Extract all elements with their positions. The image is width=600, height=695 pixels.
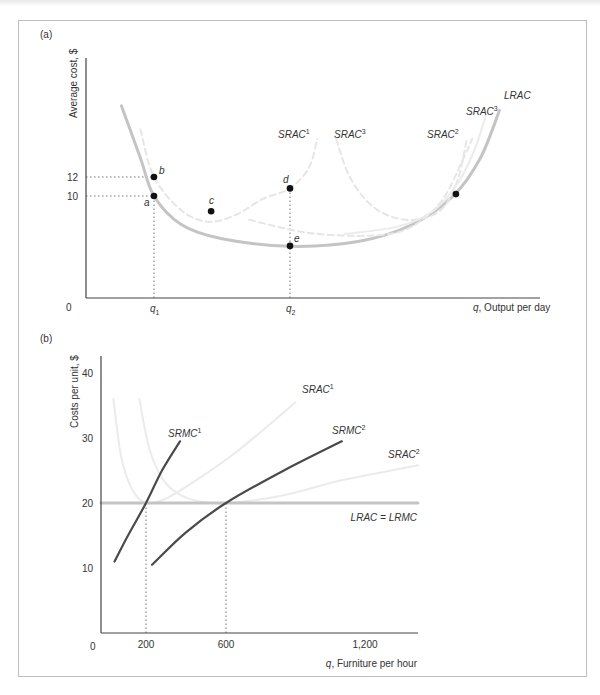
panel-a-point bbox=[453, 191, 460, 198]
panel-a-curve-srac2 bbox=[249, 139, 472, 236]
figure-svg: (a) Average cost, $ 0 1210 q1q2 q, Outpu… bbox=[0, 0, 600, 695]
panel-a-points: abcde bbox=[144, 165, 459, 249]
panel-b-y-tick-label: 30 bbox=[82, 433, 94, 444]
panel-b-x-tick-label: 1,200 bbox=[352, 639, 377, 650]
panel-a-x-label-text: , Output per day bbox=[479, 302, 551, 313]
panel-b-x-ticks: 2006001,200 bbox=[138, 639, 378, 650]
panel-a-point-label: b bbox=[159, 165, 165, 176]
panel-a-point-label: c bbox=[209, 195, 214, 206]
panel-a-y-tick-label: 10 bbox=[67, 191, 79, 202]
panel-a-point-e bbox=[287, 243, 294, 250]
panel-a-point-label: a bbox=[144, 197, 150, 208]
panel-a-point-d bbox=[287, 185, 294, 192]
panel-a-point-a bbox=[151, 193, 158, 200]
panel-b-curve-label: SRMC2 bbox=[332, 424, 365, 436]
panel-a-point-label: e bbox=[294, 233, 300, 244]
panel-a-curves bbox=[121, 106, 499, 247]
panel-b-curve-label: SRAC2 bbox=[388, 448, 420, 460]
panel-b-x-label-text: , Furniture per hour bbox=[331, 658, 417, 669]
panel-a-label: (a) bbox=[40, 29, 52, 40]
panel-b-x-tick-label: 600 bbox=[218, 639, 235, 650]
panel-b-curve-srac1 bbox=[113, 399, 295, 503]
panel-a-curve-labels: LRACSRAC1SRAC3SRAC2SRAC3 bbox=[278, 90, 531, 140]
panel-b-y-label: Costs per unit, $ bbox=[69, 355, 80, 428]
panel-a-curve-label: LRAC bbox=[504, 90, 531, 101]
panel-a-x-tick-label: q1 bbox=[150, 303, 160, 316]
panel-b-curve-label: LRAC = LRMC bbox=[351, 512, 418, 523]
panel-a-curve-lrac bbox=[121, 106, 499, 247]
panel-a-guides bbox=[86, 177, 290, 298]
panel-a-y-ticks: 1210 bbox=[67, 172, 79, 202]
panel-b-x-tick-label: 200 bbox=[138, 639, 155, 650]
panel-b: (b) Costs per unit, $ 0 10203040 2006001… bbox=[40, 333, 420, 669]
panel-b-guides bbox=[146, 503, 226, 633]
panel-a-x-tick-label: q2 bbox=[286, 303, 296, 316]
panel-b-curves bbox=[101, 399, 418, 565]
panel-a-point-c bbox=[208, 208, 215, 215]
panel-b-curve-label: SRAC1 bbox=[302, 383, 334, 395]
panel-b-origin-label: 0 bbox=[90, 641, 96, 652]
panel-a-y-label: Average cost, $ bbox=[68, 48, 79, 118]
panel-a-curve-srac3-mid bbox=[336, 139, 467, 220]
panel-a-origin-label: 0 bbox=[66, 302, 72, 313]
panel-a-x-ticks: q1q2 bbox=[150, 303, 296, 316]
panel-b-curve-srmc1 bbox=[115, 441, 181, 561]
panel-b-y-ticks: 10203040 bbox=[82, 368, 94, 574]
panel-b-y-tick-label: 40 bbox=[82, 368, 94, 379]
panel-a-point-label: d bbox=[283, 174, 289, 185]
panel-b-y-tick-label: 20 bbox=[82, 498, 94, 509]
panel-b-curve-label: SRMC1 bbox=[168, 427, 201, 439]
panel-a-y-tick-label: 12 bbox=[67, 172, 79, 183]
panel-a: (a) Average cost, $ 0 1210 q1q2 q, Outpu… bbox=[40, 29, 550, 316]
panel-a-curve-label: SRAC1 bbox=[278, 128, 310, 140]
panel-b-x-label: q, Furniture per hour bbox=[326, 658, 418, 669]
panel-b-y-tick-label: 10 bbox=[82, 563, 94, 574]
panel-a-curve-srac1 bbox=[140, 130, 317, 222]
panel-a-point-b bbox=[151, 174, 158, 181]
panel-a-x-label: q, Output per day bbox=[473, 302, 550, 313]
panel-a-curve-label: SRAC2 bbox=[427, 128, 459, 140]
panel-b-curve-srac2 bbox=[139, 399, 418, 503]
panel-b-label: (b) bbox=[40, 333, 52, 344]
panel-a-curve-label: SRAC3 bbox=[334, 128, 366, 140]
panel-a-curve-label: SRAC3 bbox=[466, 105, 498, 117]
